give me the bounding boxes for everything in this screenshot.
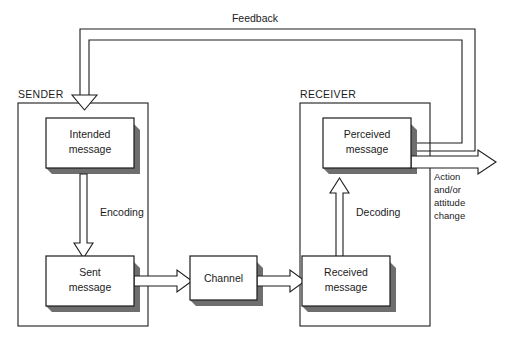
group-label-receiver: RECEIVER [300, 88, 356, 100]
decoding-arrow [330, 178, 349, 262]
outcome-label: Action and/or attitude change [434, 171, 465, 221]
outcome-line-3: attitude [434, 197, 465, 208]
edge-label-encoding: Encoding [100, 206, 144, 218]
outcome-line-4: change [434, 210, 465, 221]
diagram-canvas: Intended message Sent message Channel Re… [0, 0, 508, 348]
edge-label-feedback: Feedback [232, 12, 279, 24]
box-sent-message-line2: message [69, 281, 112, 293]
outcome-line-1: Action [434, 171, 460, 182]
outcome-line-2: and/or [434, 184, 461, 195]
box-sent-message[interactable]: Sent message [46, 256, 134, 306]
box-received-message-line1: Received [324, 266, 368, 278]
group-label-sender: SENDER [18, 88, 64, 100]
box-channel[interactable]: Channel [190, 256, 257, 300]
channel-to-received-arrow [257, 270, 305, 292]
box-channel-line1: Channel [204, 272, 243, 284]
box-perceived-message[interactable]: Perceived message [323, 118, 411, 168]
box-intended-message-line2: message [69, 143, 112, 155]
box-intended-message[interactable]: Intended message [46, 118, 134, 168]
sent-to-channel-arrow [134, 270, 192, 292]
edge-label-decoding: Decoding [356, 206, 401, 218]
box-perceived-message-line2: message [346, 143, 389, 155]
communication-model-diagram: Intended message Sent message Channel Re… [0, 0, 508, 348]
box-intended-message-line1: Intended [70, 128, 111, 140]
box-perceived-message-line1: Perceived [344, 128, 391, 140]
encoding-arrow [74, 174, 93, 258]
box-received-message-line2: message [325, 281, 368, 293]
box-sent-message-line1: Sent [79, 266, 101, 278]
box-received-message[interactable]: Received message [302, 256, 390, 306]
